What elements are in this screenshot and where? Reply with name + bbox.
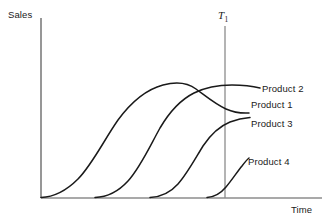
x-axis-label: Time xyxy=(291,205,312,215)
series-curve-product-2 xyxy=(95,85,260,198)
t1-marker-subscript: 1 xyxy=(225,15,229,24)
series-curve-product-1 xyxy=(41,83,249,197)
series-label-product-2: Product 2 xyxy=(262,84,304,94)
series-curve-product-4 xyxy=(207,158,249,198)
y-axis-label: Sales xyxy=(8,10,32,20)
series-label-product-1: Product 1 xyxy=(251,100,293,110)
series-curve-product-3 xyxy=(150,118,250,198)
t1-marker-label: T1 xyxy=(218,10,228,21)
t1-marker-letter: T xyxy=(218,9,224,21)
series-label-product-4: Product 4 xyxy=(248,157,290,167)
series-label-product-3: Product 3 xyxy=(251,119,293,129)
sales-life-cycle-diagram: Sales Time T1 Product 2 Product 1 Produc… xyxy=(0,0,327,221)
plot-area xyxy=(0,0,327,221)
